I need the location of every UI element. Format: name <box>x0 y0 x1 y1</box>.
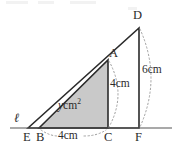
dimension-arc-bc-right <box>84 130 106 136</box>
dimension-label-6cm: 6cm <box>142 64 162 76</box>
vertex-label-d: D <box>133 9 142 22</box>
vertex-label-b: B <box>36 131 44 144</box>
dimension-arc-df <box>140 29 151 127</box>
shaded-triangle-BAC <box>39 60 108 128</box>
dimension-label-4cm-base: 4cm <box>58 130 78 142</box>
vertex-label-f: F <box>135 131 142 144</box>
vertex-label-a: A <box>109 47 118 60</box>
area-label: ycm2 <box>58 100 81 112</box>
dimension-arc-ac <box>109 61 118 127</box>
vertex-label-c: C <box>104 131 112 144</box>
vertex-label-e: E <box>23 131 31 144</box>
area-exponent: 2 <box>77 97 81 106</box>
dimension-label-4cm-height: 4cm <box>110 78 130 90</box>
line-l-label: ℓ <box>14 112 19 125</box>
geometry-figure: D A E B C F ℓ 6cm 4cm 4cm ycm2 <box>0 0 175 152</box>
area-unit: cm <box>63 99 77 111</box>
